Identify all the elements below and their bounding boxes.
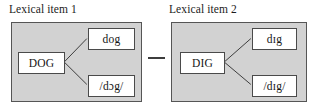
connector-lemma-to-orthographic xyxy=(224,39,251,62)
connector-lemma-to-orthographic xyxy=(64,39,87,62)
panel-separator-dash xyxy=(148,57,165,59)
connector-lemma-to-phonological xyxy=(224,62,251,84)
orthographic-node-left: dog xyxy=(88,28,135,50)
lexical-items-figure: Lexical item 1 DOG dog /dɔg/ Lexical ite… xyxy=(0,0,315,107)
connector-lemma-to-phonological xyxy=(64,62,87,84)
lexical-item-panel-left: DOG dog /dɔg/ xyxy=(11,22,142,102)
lemma-node-left: DOG xyxy=(18,52,65,74)
orthographic-node-right: dɪg xyxy=(252,28,297,50)
phonological-node-right: /dɪg/ xyxy=(252,75,297,97)
panel-caption-right: Lexical item 2 xyxy=(169,3,237,16)
phonological-node-left: /dɔg/ xyxy=(88,75,135,97)
lemma-node-right: DIG xyxy=(180,52,225,74)
panel-caption-left: Lexical item 1 xyxy=(9,3,77,16)
lexical-item-panel-right: DIG dɪg /dɪg/ xyxy=(171,22,307,102)
